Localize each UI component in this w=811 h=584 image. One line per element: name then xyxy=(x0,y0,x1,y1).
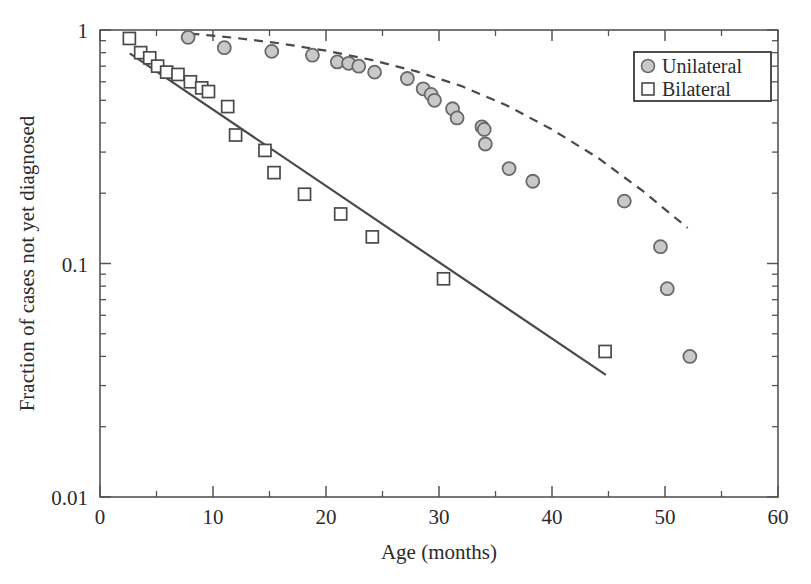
bilateral-fit-line xyxy=(131,54,606,374)
bilateral-data-point xyxy=(230,129,242,141)
bilateral-data-point xyxy=(335,208,347,220)
series-unilateral-markers xyxy=(182,31,697,363)
unilateral-data-point xyxy=(683,350,696,363)
bilateral-data-point xyxy=(123,32,135,44)
unilateral-data-point xyxy=(368,66,381,79)
bilateral-data-point xyxy=(202,86,214,98)
unilateral-data-point xyxy=(654,240,667,253)
unilateral-data-point xyxy=(265,45,278,58)
bilateral-data-point xyxy=(184,76,196,88)
unilateral-data-point xyxy=(451,111,464,124)
legend-label-unilateral: Unilateral xyxy=(662,55,742,77)
scatter-plot: 010203040506010.10.01Age (months)Fractio… xyxy=(0,0,811,584)
y-tick-label: 0.01 xyxy=(51,486,88,510)
fit-line-bilateral xyxy=(131,54,606,374)
x-tick-label: 40 xyxy=(542,505,563,529)
unilateral-fit-curve xyxy=(190,34,687,228)
legend-marker-unilateral xyxy=(642,60,655,73)
x-axis-label: Age (months) xyxy=(381,540,497,564)
bilateral-data-point xyxy=(259,144,271,156)
unilateral-data-point xyxy=(182,31,195,44)
bilateral-data-point xyxy=(222,101,234,113)
bilateral-data-point xyxy=(161,66,173,78)
y-tick-label: 0.1 xyxy=(62,253,88,277)
bilateral-data-point xyxy=(299,188,311,200)
x-tick-label: 30 xyxy=(429,505,450,529)
unilateral-data-point xyxy=(428,94,441,107)
bilateral-data-point xyxy=(366,231,378,243)
unilateral-data-point xyxy=(478,123,491,136)
y-axis-label: Fraction of cases not yet diagnosed xyxy=(15,115,39,411)
x-tick-label: 50 xyxy=(655,505,676,529)
x-tick-label: 60 xyxy=(768,505,789,529)
fit-curve-unilateral xyxy=(190,34,687,228)
unilateral-data-point xyxy=(352,60,365,73)
legend-marker-bilateral xyxy=(642,83,654,95)
unilateral-data-point xyxy=(661,282,674,295)
x-tick-label: 20 xyxy=(316,505,337,529)
unilateral-data-point xyxy=(503,162,516,175)
bilateral-data-point xyxy=(438,273,450,285)
bilateral-data-point xyxy=(268,167,280,179)
unilateral-data-point xyxy=(218,41,231,54)
y-tick-label: 1 xyxy=(78,19,89,43)
bilateral-data-point xyxy=(172,68,184,80)
x-tick-label: 10 xyxy=(203,505,224,529)
unilateral-data-point xyxy=(479,137,492,150)
series-bilateral-markers xyxy=(123,32,611,357)
figure-container: 010203040506010.10.01Age (months)Fractio… xyxy=(0,0,811,584)
bilateral-data-point xyxy=(599,345,611,357)
unilateral-data-point xyxy=(618,195,631,208)
legend-label-bilateral: Bilateral xyxy=(662,78,731,100)
x-tick-label: 0 xyxy=(95,505,106,529)
unilateral-data-point xyxy=(401,72,414,85)
legend: UnilateralBilateral xyxy=(634,52,771,101)
unilateral-data-point xyxy=(306,49,319,62)
unilateral-data-point xyxy=(526,175,539,188)
